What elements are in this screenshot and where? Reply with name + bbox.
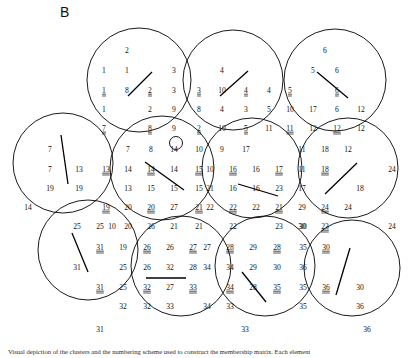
node-number-label: 29 [249,263,257,272]
node-number-label: 10 [206,165,214,174]
node-number-label: 11 [298,145,306,154]
node-number-label: 31 [73,263,81,272]
node-number-label: 24 [388,222,396,231]
node-number-label: 35 [273,283,281,292]
node-number-label: 36 [363,325,371,334]
node-number-label: 1 [125,66,129,75]
node-number-label: 4 [244,86,248,95]
node-number-label: 10 [195,145,203,154]
node-number-label: 14 [170,165,178,174]
node-number-label: 22 [206,203,214,212]
node-number-label: 4 [220,66,224,75]
node-number-label: 34 [226,283,234,292]
node-number-label: 24 [321,203,329,212]
node-number-label: 23 [275,222,283,231]
node-number-label: 8 [197,105,201,114]
node-number-label: 2 [125,46,129,55]
node-number-label: 26 [166,243,174,252]
cluster-circle [284,29,386,131]
node-number-label: 13 [124,184,132,193]
node-number-label: 19 [46,184,54,193]
node-number-label: 12 [344,145,352,154]
node-number-label: 6 [335,66,339,75]
node-number-label: 30 [322,243,330,252]
node-number-label: 11 [286,124,294,133]
node-number-label: 5 [288,86,292,95]
node-number-label: 31 [96,325,104,334]
node-number-label: 8 [149,145,153,154]
number-labels-layer: 2113182312978943104484352105116565610176… [24,46,396,334]
node-number-label: 27 [170,203,178,212]
cluster-circle [13,113,113,213]
node-number-label: 18 [356,184,364,193]
node-number-label: 9 [172,105,176,114]
node-number-label: 22 [229,222,237,231]
node-number-label: 16 [252,165,260,174]
node-number-label: 30 [273,263,281,272]
node-number-label: 6 [335,105,339,114]
node-number-label: 27 [203,243,211,252]
node-number-label: 26 [143,263,151,272]
node-number-label: 21 [195,222,203,231]
node-number-label: 11 [265,124,273,133]
node-number-label: 15 [195,184,203,193]
node-number-label: 17 [242,145,250,154]
node-number-label: 36 [322,283,330,292]
node-number-label: 20 [124,203,132,212]
node-number-label: 22 [229,203,237,212]
node-number-label: 9 [172,124,176,133]
cluster-line-segment [336,248,350,295]
node-number-label: 24 [344,203,352,212]
node-number-label: 32 [119,302,127,311]
node-number-label: 10 [218,124,226,133]
cluster-line-segment [61,135,68,184]
node-number-label: 25 [96,222,104,231]
node-number-label: 8 [125,86,129,95]
node-number-label: 11 [298,165,306,174]
node-number-label: 35 [299,302,307,311]
node-number-label: 30 [356,283,364,292]
node-number-label: 33 [226,302,234,311]
cluster-line-segment [317,72,348,98]
node-number-label: 21 [195,203,203,212]
node-number-label: 17 [275,165,283,174]
node-number-label: 33 [166,302,174,311]
node-number-label: 34 [203,263,211,272]
node-number-label: 3 [172,86,176,95]
node-number-label: 30 [299,222,307,231]
node-number-label: 36 [299,263,307,272]
node-number-label: 7 [126,145,130,154]
node-number-label: 7 [48,145,52,154]
node-number-label: 4 [267,86,271,95]
node-number-label: 15 [195,165,203,174]
node-number-label: 17 [309,105,317,114]
node-number-label: 27 [189,243,197,252]
node-number-label: 31 [96,283,104,292]
node-number-label: 12 [357,124,365,133]
node-number-label: 20 [147,203,155,212]
node-number-label: 9 [220,145,224,154]
node-number-label: 19 [119,243,127,252]
node-number-label: 6 [335,86,339,95]
node-number-label: 14 [124,165,132,174]
node-number-label: 3 [244,105,248,114]
node-number-label: 12 [309,124,317,133]
node-number-label: 19 [75,184,83,193]
node-number-label: 1 [102,66,106,75]
node-number-label: 33 [241,325,249,334]
node-number-label: 2 [148,105,152,114]
node-number-label: 10 [218,86,226,95]
node-number-label: 16 [229,165,237,174]
node-number-label: 15 [170,184,178,193]
node-number-label: 25 [119,283,127,292]
node-number-label: 28 [249,283,257,292]
node-number-label: 36 [356,302,364,311]
node-number-label: 15 [147,184,155,193]
node-number-label: 23 [275,184,283,193]
node-number-label: 34 [226,263,234,272]
node-number-label: 1 [102,86,106,95]
cluster-line-segment [325,163,357,194]
cluster-circle [183,30,283,130]
node-number-label: 10 [286,105,294,114]
node-number-label: 17 [298,184,306,193]
